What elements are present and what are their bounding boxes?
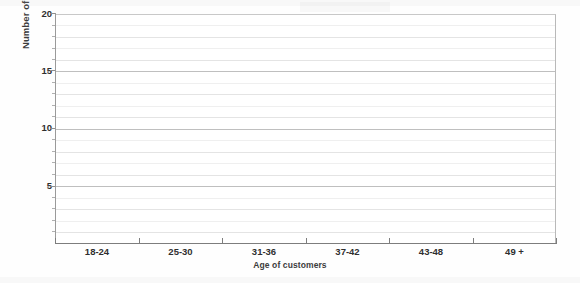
y-tick-19 bbox=[52, 25, 55, 26]
x-tick-4 bbox=[389, 238, 390, 243]
gridline-3 bbox=[55, 209, 555, 210]
y-axis-line bbox=[55, 13, 56, 244]
x-tick-5 bbox=[473, 238, 474, 243]
plot-area bbox=[55, 14, 556, 243]
x-tick-0 bbox=[55, 238, 56, 243]
y-tick-8 bbox=[52, 151, 55, 152]
x-category-label-43-48: 43-48 bbox=[389, 246, 473, 258]
y-tick-12 bbox=[52, 105, 55, 106]
gridline-14 bbox=[55, 83, 555, 84]
gridline-10 bbox=[55, 129, 555, 130]
scan-artifact-bottom bbox=[0, 277, 580, 283]
y-tick-4 bbox=[52, 197, 55, 198]
gridline-13 bbox=[55, 94, 555, 95]
gridline-11 bbox=[55, 117, 555, 118]
y-tick-1 bbox=[52, 231, 55, 232]
scan-artifact-upper-right bbox=[300, 2, 390, 12]
y-tick-label-15: 15 bbox=[34, 66, 52, 76]
y-tick-20 bbox=[50, 13, 55, 14]
gridline-1 bbox=[55, 232, 555, 233]
gridline-12 bbox=[55, 106, 555, 107]
y-tick-13 bbox=[52, 93, 55, 94]
y-tick-6 bbox=[52, 174, 55, 175]
gridline-6 bbox=[55, 175, 555, 176]
x-category-label-37-42: 37-42 bbox=[306, 246, 389, 258]
gridline-2 bbox=[55, 221, 555, 222]
x-tick-2 bbox=[222, 238, 223, 243]
y-tick-17 bbox=[52, 48, 55, 49]
y-tick-3 bbox=[52, 208, 55, 209]
y-tick-15 bbox=[50, 70, 55, 71]
x-tick-6 bbox=[556, 238, 557, 243]
x-category-label-31-36: 31-36 bbox=[222, 246, 306, 258]
y-tick-14 bbox=[52, 82, 55, 83]
x-tick-3 bbox=[306, 238, 307, 243]
x-axis-line bbox=[55, 243, 557, 244]
y-tick-9 bbox=[52, 139, 55, 140]
gridline-17 bbox=[55, 48, 555, 49]
gridline-5 bbox=[55, 186, 555, 187]
y-tick-label-20: 20 bbox=[34, 9, 52, 19]
scan-artifact-top bbox=[0, 0, 580, 6]
gridline-4 bbox=[55, 198, 555, 199]
gridline-18 bbox=[55, 37, 555, 38]
y-axis-tick-labels: 20 15 10 5 bbox=[34, 0, 52, 283]
gridline-9 bbox=[55, 140, 555, 141]
y-tick-2 bbox=[52, 220, 55, 221]
gridline-19 bbox=[55, 25, 555, 26]
y-axis-title: Number of customers bbox=[19, 0, 33, 64]
x-axis-title: Age of customers bbox=[0, 260, 580, 270]
x-tick-1 bbox=[139, 238, 140, 243]
y-tick-7 bbox=[52, 162, 55, 163]
gridline-15 bbox=[55, 71, 555, 72]
x-category-label-25-30: 25-30 bbox=[139, 246, 222, 258]
gridline-16 bbox=[55, 60, 555, 61]
chart-figure: Number of customers 20 15 10 5 bbox=[0, 0, 580, 283]
gridline-8 bbox=[55, 152, 555, 153]
y-tick-10 bbox=[50, 128, 55, 129]
y-tick-16 bbox=[52, 59, 55, 60]
gridline-7 bbox=[55, 163, 555, 164]
y-tick-18 bbox=[52, 36, 55, 37]
x-category-label-18-24: 18-24 bbox=[55, 246, 139, 258]
y-tick-5 bbox=[50, 186, 55, 187]
y-tick-11 bbox=[52, 116, 55, 117]
x-category-label-49-plus: 49 + bbox=[473, 246, 556, 258]
